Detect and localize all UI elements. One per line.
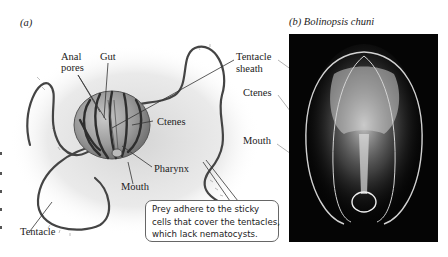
comb-jelly-photo-rendering xyxy=(289,34,438,242)
page-edge-marks xyxy=(0,150,3,250)
callout-line-1: Prey adhere to the sticky xyxy=(152,203,278,216)
callout-line-2: cells that cover the tentacles, xyxy=(152,216,278,229)
label-mouth-a: Mouth xyxy=(121,181,149,192)
label-anal-pores-1: Anal xyxy=(61,51,81,62)
callout-line-3: which lack nematocysts. xyxy=(152,228,278,241)
bolinopsis-photo xyxy=(289,34,438,242)
panel-a-label: (a) xyxy=(20,17,32,28)
ctenophore-body xyxy=(74,91,150,159)
label-tentacle-sheath-a-2: sheath xyxy=(236,63,263,74)
label-anal-pores-2: pores xyxy=(61,62,84,73)
label-tentacle: Tentacle xyxy=(20,226,55,237)
label-ctenes-a: Ctenes xyxy=(157,116,186,127)
callout-prey-adhesion: Prey adhere to the sticky cells that cov… xyxy=(145,200,279,242)
mouth-structure xyxy=(112,149,122,157)
label-gut: Gut xyxy=(100,51,116,62)
label-pharynx: Pharynx xyxy=(154,163,189,174)
ctenophore-figure: (a) (b) Bolinopsis chuni Anal pores Gut … xyxy=(0,0,448,257)
label-ctenes-b: Ctenes xyxy=(243,87,272,98)
panel-b-label: (b) Bolinopsis chuni xyxy=(289,16,374,27)
label-tentacle-sheath-a-1: Tentacle xyxy=(236,51,271,62)
label-mouth-b: Mouth xyxy=(243,135,271,146)
